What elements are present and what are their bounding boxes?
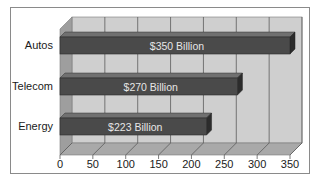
- x-tick-label: 50: [87, 158, 99, 170]
- floor: [60, 143, 302, 155]
- x-tick-label: 250: [215, 158, 233, 170]
- x-tick-label: 100: [117, 158, 135, 170]
- category-label: Energy: [18, 120, 53, 132]
- bar-top-face: [60, 73, 242, 78]
- x-tick-label: 150: [149, 158, 167, 170]
- x-tick-label: 200: [182, 158, 200, 170]
- bar-chart: $350 Billion$270 Billion$223 Billion Aut…: [0, 0, 317, 179]
- chart-canvas: $350 Billion$270 Billion$223 Billion Aut…: [0, 0, 317, 179]
- bar-data-label: $350 Billion: [150, 40, 204, 52]
- category-label: Telecom: [12, 80, 53, 92]
- bar-top-face: [60, 113, 212, 118]
- category-label: Autos: [25, 39, 54, 51]
- x-tick-label: 350: [281, 158, 299, 170]
- bar-autos: $350 Billion: [60, 32, 295, 54]
- bar-energy: $223 Billion: [60, 113, 212, 135]
- bar-telecom: $270 Billion: [60, 73, 242, 95]
- bar-data-label: $270 Billion: [124, 81, 178, 93]
- x-tick-label: 300: [248, 158, 266, 170]
- x-tick-label: 0: [57, 158, 63, 170]
- bar-data-label: $223 Billion: [108, 121, 162, 133]
- bar-top-face: [60, 32, 295, 37]
